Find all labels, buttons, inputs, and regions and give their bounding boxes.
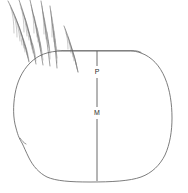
label-m: M (94, 109, 100, 116)
body-outline-path (14, 51, 172, 182)
top-rim-line (62, 51, 141, 53)
seta-5-barbs (51, 11, 57, 63)
label-p: P (95, 68, 100, 75)
seta-1-barbs (10, 5, 29, 61)
figure-container: P M (0, 0, 188, 193)
line-drawing-svg: P M (0, 0, 188, 193)
seta-1-shaft (8, 1, 29, 62)
seta-5-shaft (50, 6, 57, 68)
setae-group (8, 0, 78, 72)
seta-1 (8, 1, 29, 62)
body-outline-group (14, 51, 172, 182)
seta-6 (64, 26, 78, 72)
seta-5 (50, 6, 57, 68)
